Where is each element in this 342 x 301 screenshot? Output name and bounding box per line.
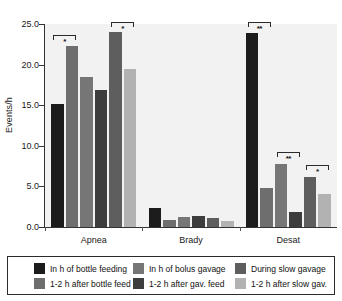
bars-panel [45,24,337,227]
bar [221,221,234,227]
significance-marker: * [111,26,134,32]
plot-area: Events/h 0.05.010.015.020.025.0 ApneaBra… [0,0,342,250]
x-group-separator [240,227,241,231]
bar [304,177,317,227]
x-tick-label: Brady [179,235,203,245]
bar [246,33,259,227]
y-tick-label: 5.0 [26,181,39,191]
y-axis-ticks: 0.05.010.015.020.025.0 [0,0,47,250]
y-tick-label: 0.0 [26,222,39,232]
bar [51,104,64,227]
bar [260,188,273,227]
significance-marker: * [306,169,329,175]
legend-item: 1-2 h after bottle feed [34,276,131,291]
significance-marker: ** [248,26,271,32]
bar [80,77,93,227]
legend-column: In h of bottle feeding1-2 h after bottle… [34,261,131,291]
bar [289,212,302,227]
bar [124,69,137,227]
legend-label: In h of bolus gavage [149,264,226,274]
legend-item: In h of bottle feeding [34,261,131,276]
bar [178,217,191,227]
bar [149,208,162,227]
legend-item: In h of bolus gavage [133,261,226,276]
legend-color-swatch [34,263,45,274]
bar [275,164,288,227]
x-axis-origin-tick [45,227,46,231]
bar [109,32,122,227]
bar [95,90,108,227]
significance-marker: * [53,39,76,45]
legend-color-swatch [34,278,45,289]
y-tick-label: 20.0 [21,60,39,70]
legend-label: 1-2 h after bottle feed [50,279,131,289]
bar [192,216,205,227]
legend-color-swatch [235,263,246,274]
legend-label: 1-2 h after gav. feed [149,279,224,289]
legend: In h of bottle feeding1-2 h after bottle… [7,256,335,295]
legend-color-swatch [133,278,144,289]
y-tick-label: 15.0 [21,100,39,110]
bar [207,218,220,227]
bar [318,194,331,227]
legend-column: In h of bolus gavage1-2 h after gav. fee… [133,261,226,291]
x-group-separator [142,227,143,231]
significance-marker: ** [277,156,300,162]
legend-item: During slow gavage [235,261,327,276]
legend-item: 1-2 h after slow gav. [235,276,327,291]
legend-label: During slow gavage [251,264,326,274]
y-tick-label: 25.0 [21,19,39,29]
legend-color-swatch [235,278,246,289]
legend-label: 1-2 h after slow gav. [251,279,327,289]
legend-column: During slow gavage1-2 h after slow gav. [235,261,327,291]
x-tick-label: Desat [277,235,301,245]
figure: Events/h 0.05.010.015.020.025.0 ApneaBra… [0,0,342,301]
x-tick-label: Apnea [81,235,107,245]
legend-label: In h of bottle feeding [50,264,127,274]
legend-item: 1-2 h after gav. feed [133,276,226,291]
legend-color-swatch [133,263,144,274]
y-tick-label: 10.0 [21,141,39,151]
bar [163,220,176,227]
bar [66,46,79,227]
x-axis-line [44,227,337,228]
